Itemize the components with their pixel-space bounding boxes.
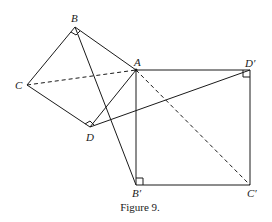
label-c: C bbox=[15, 79, 23, 91]
label-d: D bbox=[85, 131, 94, 143]
figure-caption: Figure 9. bbox=[120, 201, 160, 213]
geometry-figure: B C A D D′ B′ C′ Figure 9. bbox=[0, 0, 272, 222]
label-b: B bbox=[71, 12, 78, 24]
diagonal-a-cprime bbox=[136, 70, 250, 185]
right-angle-mark-bprime bbox=[136, 178, 143, 185]
segment-bc bbox=[27, 27, 75, 85]
dashed-diagonals bbox=[27, 70, 250, 185]
label-b-prime: B′ bbox=[132, 187, 142, 199]
segment-cd bbox=[27, 85, 90, 127]
right-angle-marks bbox=[71, 31, 250, 185]
connecting-lines bbox=[75, 27, 250, 185]
point-a-dot bbox=[135, 69, 138, 72]
segment-d-dprime bbox=[90, 70, 250, 127]
segment-ab bbox=[75, 27, 136, 70]
label-d-prime: D′ bbox=[244, 57, 256, 69]
label-a: A bbox=[133, 56, 141, 68]
label-c-prime: C′ bbox=[247, 187, 257, 199]
square-abcd bbox=[27, 27, 136, 127]
segment-b-bprime bbox=[75, 27, 136, 185]
diagonal-ca bbox=[27, 70, 136, 85]
right-angle-mark-b bbox=[71, 31, 80, 35]
